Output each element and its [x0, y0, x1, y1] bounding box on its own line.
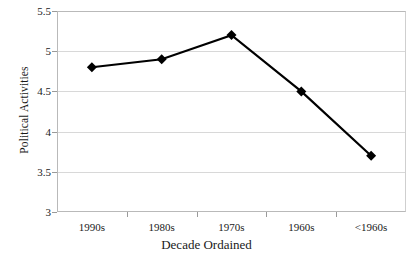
data-point-marker: [157, 54, 167, 64]
x-axis-title: Decade Ordained: [0, 237, 413, 253]
data-point-marker: [87, 62, 97, 72]
data-series: [0, 0, 413, 258]
series-line: [92, 35, 371, 156]
line-chart: Political Activities 33.544.555.5 1990s1…: [0, 0, 413, 258]
